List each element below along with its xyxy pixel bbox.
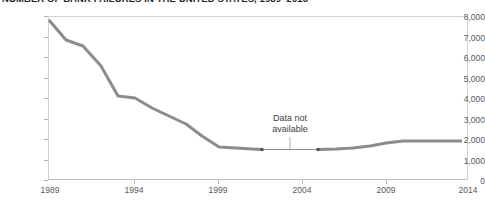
annotation-line-2: available [272,124,308,135]
data-not-available-annotation: Data not available [272,113,308,134]
gap-start-marker [260,148,263,151]
data-series-line [49,20,262,150]
gap-end-marker [316,148,319,151]
data-series-line-resumed [318,141,462,150]
chart-graphics [0,0,485,200]
annotation-line-1: Data not [272,113,308,124]
bank-failures-line-chart: NUMBER OF BANK FAILURES IN THE UNITED ST… [0,0,485,200]
